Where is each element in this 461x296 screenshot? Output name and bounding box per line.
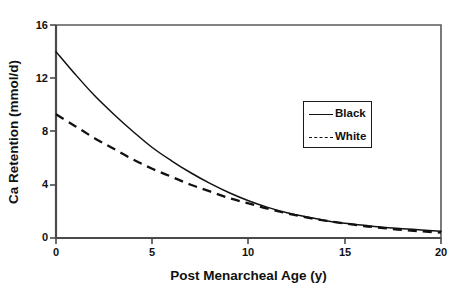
chart-figure: Ca Retention (mmol/d) Post Menarcheal Ag… <box>0 0 461 296</box>
legend-label-black: Black <box>335 107 366 119</box>
legend-line-sample-solid-icon <box>309 114 333 115</box>
plot-area <box>0 0 461 296</box>
legend-entry-black: Black <box>304 103 371 126</box>
axis-frame <box>56 25 441 238</box>
legend-line-sample-dashed-icon <box>309 137 333 138</box>
legend-entry-white: White <box>304 126 371 149</box>
legend-label-white: White <box>335 130 366 142</box>
legend: Black White <box>303 101 372 148</box>
series-line-white <box>56 114 441 232</box>
